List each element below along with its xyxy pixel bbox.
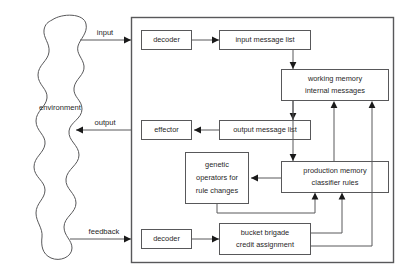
output-arrowhead: [76, 127, 83, 134]
conn-bucket-brigade-to-working-memory-arrow: [369, 101, 376, 108]
environment-blob: [34, 15, 86, 259]
working-memory-line1: working memory: [307, 74, 363, 83]
input-arrowhead: [124, 37, 131, 44]
working-memory-line2: internal messages: [305, 86, 365, 95]
bucket-brigade-line2: credit assignment: [236, 240, 294, 249]
output-edge-label: output: [94, 118, 116, 127]
production-memory-line1: production memory: [303, 166, 367, 175]
conn-bucket-brigade-to-production-memory-arrow: [339, 193, 346, 200]
genetic-operators-line1: genetic: [205, 160, 229, 169]
environment-label: environment: [39, 103, 82, 112]
input-decoder-label: decoder: [153, 35, 180, 44]
feedback-arrowhead: [124, 236, 131, 243]
classifier-system-diagram: environment input output feedback decode…: [0, 0, 411, 276]
diagram-canvas: environment input output feedback decode…: [0, 0, 411, 276]
bucket-brigade-line1: bucket brigade: [241, 228, 289, 237]
effector-label: effector: [154, 125, 179, 134]
conn-input-list-to-working-memory-arrow: [290, 62, 297, 69]
conn-production-memory-to-working-memory-arrow: [331, 101, 338, 108]
feedback-decoder-label: decoder: [153, 234, 180, 243]
conn-feedback-decoder-to-bucket-brigade-arrow: [212, 236, 219, 243]
conn-output-list-to-effector-arrow: [194, 127, 201, 134]
input-edge-label: input: [97, 28, 114, 37]
conn-working-memory-to-production-memory-arrow: [290, 154, 297, 161]
conn-decoder-to-input-list-arrow: [212, 37, 219, 44]
conn-genetic-operators-to-production-memory-arrow: [312, 193, 319, 200]
production-memory-line2: classifier rules: [312, 178, 359, 187]
input-message-list-label: input message list: [235, 35, 294, 44]
genetic-operators-line3: rule changes: [196, 186, 239, 195]
output-message-list-label: output message list: [233, 125, 297, 134]
conn-production-memory-to-genetic-operators-arrow: [251, 175, 258, 182]
genetic-operators-line2: operators for: [196, 173, 238, 182]
feedback-edge-label: feedback: [89, 227, 120, 236]
